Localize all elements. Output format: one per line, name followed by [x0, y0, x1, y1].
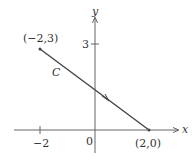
x-tick-label-minus-2: −2	[33, 138, 49, 149]
diagram-canvas	[0, 0, 194, 163]
start-point-label: (−2,3)	[23, 33, 58, 44]
line-segment-diagram: y x 3 −2 0 (−2,3) (2,0) C	[0, 0, 194, 163]
y-tick-label-3: 3	[82, 39, 89, 50]
curve-c-segment	[40, 49, 149, 130]
end-point	[148, 129, 151, 132]
origin-label: 0	[86, 136, 93, 147]
x-axis-label: x	[182, 124, 188, 135]
curve-name-label: C	[52, 67, 60, 78]
y-axis-label: y	[92, 6, 98, 17]
end-point-label: (2,0)	[135, 138, 161, 149]
start-point	[39, 48, 42, 51]
